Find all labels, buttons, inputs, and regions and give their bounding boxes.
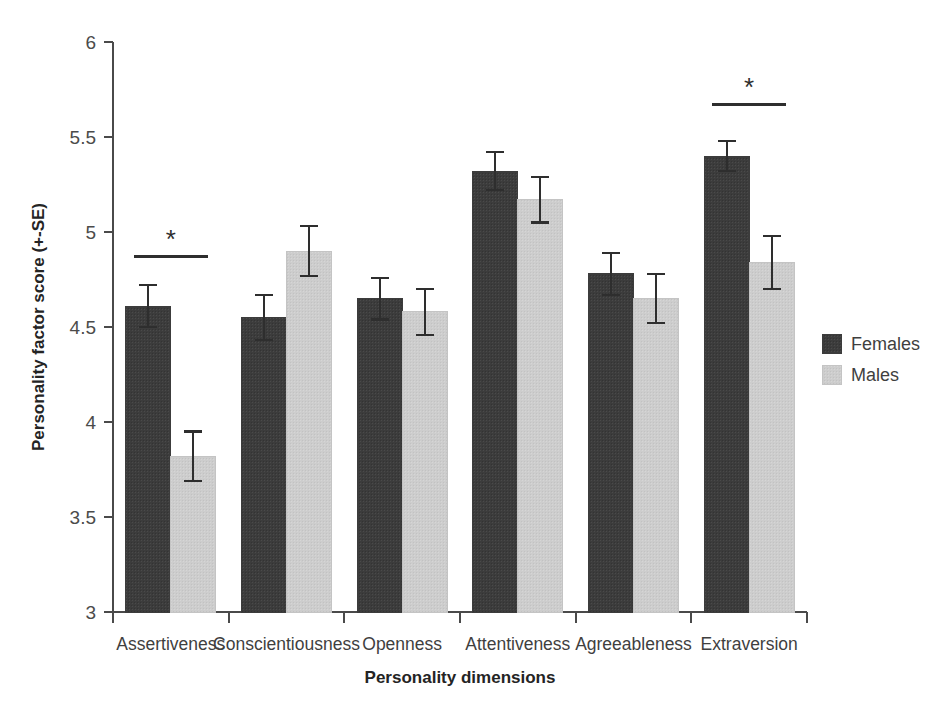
x-tick-label: Conscientiousness xyxy=(213,634,360,654)
x-tick-label: Agreeableness xyxy=(575,634,692,654)
significance-group: ** xyxy=(134,72,786,257)
bar-females-1 xyxy=(242,318,287,613)
x-axis: AssertivenessConscientiousnessOpennessAt… xyxy=(113,612,807,687)
x-axis-title: Personality dimensions xyxy=(365,668,556,687)
legend-swatch-males xyxy=(822,365,841,384)
chart-legend: FemalesMales xyxy=(822,334,920,385)
x-tick-label: Extraversion xyxy=(701,634,798,654)
legend-label-females: Females xyxy=(851,334,920,354)
significance-asterisk: * xyxy=(744,72,754,102)
error-bars-group xyxy=(139,141,780,481)
bar-males-5 xyxy=(749,262,794,612)
figure-root: 33.544.555.56 Personality factor score (… xyxy=(0,0,940,709)
bar-chart: 33.544.555.56 Personality factor score (… xyxy=(0,0,940,709)
bar-males-4 xyxy=(634,299,679,613)
y-tick-label: 3 xyxy=(85,602,96,623)
y-tick-group: 33.544.555.56 xyxy=(70,32,113,623)
bar-females-5 xyxy=(704,156,749,612)
y-tick-label: 5.5 xyxy=(70,127,96,148)
y-tick-label: 6 xyxy=(85,32,96,53)
y-tick-label: 5 xyxy=(85,222,96,243)
x-tick-label: Openness xyxy=(362,634,442,654)
x-tick-label-group: AssertivenessConscientiousnessOpennessAt… xyxy=(116,634,797,654)
x-tick-label: Attentiveness xyxy=(465,634,570,654)
y-tick-label: 4 xyxy=(85,412,96,433)
y-tick-label: 3.5 xyxy=(70,507,96,528)
bar-males-2 xyxy=(402,312,447,612)
bar-females-3 xyxy=(473,171,518,612)
legend-swatch-females xyxy=(822,334,841,353)
bar-females-2 xyxy=(357,299,402,613)
bar-males-1 xyxy=(287,251,332,612)
x-tick-group xyxy=(113,612,807,623)
x-tick-label: Assertiveness xyxy=(116,634,225,654)
bar-females-0 xyxy=(126,306,171,612)
y-axis: 33.544.555.56 Personality factor score (… xyxy=(29,32,113,623)
y-axis-title: Personality factor score (+-SE) xyxy=(29,203,48,451)
bar-males-3 xyxy=(518,200,563,612)
significance-asterisk: * xyxy=(166,224,176,254)
bar-females-4 xyxy=(589,274,634,612)
bars-group xyxy=(126,156,794,612)
y-tick-label: 4.5 xyxy=(70,317,96,338)
legend-label-males: Males xyxy=(851,365,899,385)
